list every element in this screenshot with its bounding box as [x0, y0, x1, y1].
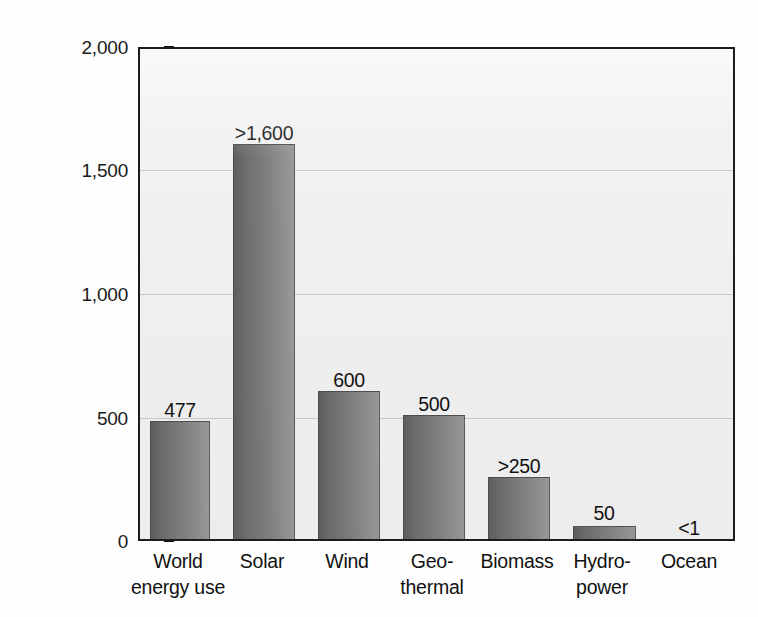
x-category-line1: Ocean: [661, 550, 717, 572]
x-category-line2: energy use: [128, 574, 228, 600]
bar-biomass: [488, 477, 550, 539]
bar-solar: [233, 144, 295, 539]
bar-value-label-ocean: <1: [649, 519, 729, 539]
bar-geothermal: [403, 415, 465, 539]
y-tick-label-1500: 1,500: [42, 161, 128, 180]
bar-world-energy-use: [150, 421, 210, 539]
x-category-solar: Solar: [219, 548, 305, 574]
y-tick-label-0: 0: [42, 532, 128, 551]
x-category-wind: Wind: [304, 548, 390, 574]
gridline-1000: [140, 294, 733, 295]
y-tick-label-2000: 2,000: [42, 38, 128, 57]
x-category-line1: World: [153, 550, 202, 572]
bar-chart-figure: Energy flow (exajoules per year) 2,000 1…: [0, 0, 758, 617]
x-category-geothermal: Geo- thermal: [389, 548, 475, 600]
bar-value-label-geothermal: 500: [394, 395, 474, 415]
y-axis-ticks: 2,000 1,500 1,000 500 0: [36, 0, 128, 617]
x-category-line1: Geo-: [411, 550, 453, 572]
x-category-biomass: Biomass: [469, 548, 565, 574]
x-axis-categories: World energy use Solar Wind Geo- thermal…: [138, 548, 735, 612]
y-tick-label-500: 500: [42, 409, 128, 428]
x-category-line2: power: [559, 574, 645, 600]
x-category-world-energy-use: World energy use: [128, 548, 228, 600]
bar-wind: [318, 391, 380, 539]
gridline-1500: [140, 170, 733, 171]
y-tick-label-1000: 1,000: [42, 285, 128, 304]
bar-value-label-hydropower: 50: [564, 504, 644, 524]
bar-value-label-world-energy-use: 477: [140, 401, 220, 421]
bar-value-label-biomass: >250: [473, 457, 565, 477]
x-category-line1: Wind: [325, 550, 368, 572]
x-category-line1: Solar: [240, 550, 284, 572]
bar-value-label-solar: >1,600: [218, 124, 310, 144]
bar-value-label-wind: 600: [309, 371, 389, 391]
x-category-line1: Biomass: [480, 550, 553, 572]
y-axis-title: Energy flow (exajoules per year): [6, 0, 32, 73]
x-category-hydropower: Hydro- power: [559, 548, 645, 600]
plot-area: 477 >1,600 600 500 >250 50 <1: [138, 47, 735, 541]
x-category-line1: Hydro-: [573, 550, 630, 572]
bar-hydropower: [573, 526, 636, 539]
x-category-line2: thermal: [389, 574, 475, 600]
x-category-ocean: Ocean: [646, 548, 732, 574]
